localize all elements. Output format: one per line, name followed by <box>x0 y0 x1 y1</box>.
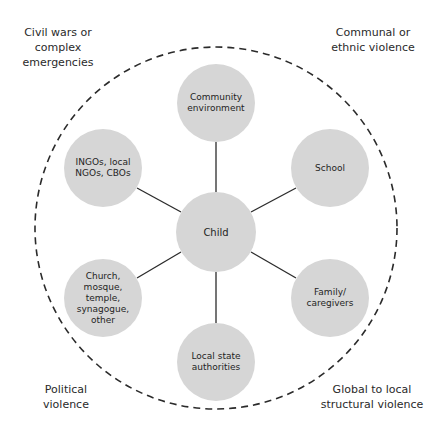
node-ngos-circle <box>64 129 142 207</box>
nodes <box>64 64 369 401</box>
corner-label-top-left: Civil wars or complex emergencies <box>0 25 116 70</box>
edge-child-school <box>251 188 296 212</box>
node-school-circle <box>291 129 369 207</box>
edge-child-family <box>251 252 296 278</box>
node-family-circle <box>291 259 369 337</box>
corner-label-top-right: Communal or ethnic violence <box>323 25 423 55</box>
node-child-circle <box>176 192 256 272</box>
node-religious-circle <box>64 259 142 337</box>
corner-label-bottom-right: Global to local structural violence <box>320 382 424 412</box>
node-community-circle <box>177 64 255 142</box>
edge-child-ngos <box>137 188 181 212</box>
edge-child-religious <box>137 252 181 278</box>
node-local-state-circle <box>177 323 255 401</box>
corner-label-bottom-left: Political violence <box>36 382 96 412</box>
